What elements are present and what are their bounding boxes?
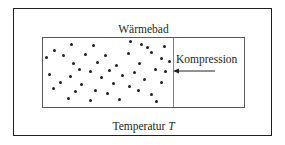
gas-molecule [163, 45, 166, 48]
gas-molecule [118, 98, 121, 101]
gas-molecule [160, 81, 163, 84]
gas-molecule [84, 53, 87, 56]
gas-molecule [108, 69, 111, 72]
gas-molecule [129, 40, 132, 43]
gas-molecule [154, 68, 157, 71]
gas-molecule [78, 68, 81, 71]
gas-molecule [96, 61, 99, 64]
gas-molecule [143, 78, 146, 81]
gas-molecule [52, 87, 55, 90]
gas-molecule [150, 93, 153, 96]
gas-molecule [164, 70, 167, 73]
gas-molecule [128, 85, 131, 88]
gas-molecule [45, 56, 48, 59]
gas-molecule [100, 76, 103, 79]
gas-molecule [92, 44, 95, 47]
gas-molecule [62, 54, 65, 57]
gas-molecule [137, 89, 140, 92]
gas-molecule [150, 51, 153, 54]
gas-molecule [94, 89, 97, 92]
gas-molecule [80, 83, 83, 86]
temperature-label-text: Temperatur [112, 120, 165, 132]
gas-molecule [72, 62, 75, 65]
gas-molecule [115, 64, 118, 67]
temperature-label: Temperatur T [14, 119, 273, 133]
gas-molecule [74, 90, 77, 93]
gas-molecule [59, 81, 62, 84]
gas-molecule [89, 70, 92, 73]
gas-molecule [121, 74, 124, 77]
heat-bath-label: Wärmebad [14, 22, 273, 36]
gas-molecule [89, 99, 92, 102]
gas-region [43, 38, 173, 107]
gas-molecule [70, 43, 73, 46]
gas-molecule [112, 82, 115, 85]
gas-molecule [67, 97, 70, 100]
gas-molecule [127, 52, 130, 55]
gas-molecule [155, 100, 158, 103]
compression-annotation: Kompression [176, 52, 281, 78]
gas-molecule [69, 75, 72, 78]
gas-molecule [133, 71, 136, 74]
gas-molecule [106, 92, 109, 95]
gas-molecule [168, 60, 171, 63]
gas-molecule [53, 49, 56, 52]
compression-label: Kompression [176, 52, 237, 66]
compression-diagram: Wärmebad Temperatur T Kompression [0, 0, 285, 145]
temperature-symbol: T [168, 120, 174, 132]
gas-molecule [140, 43, 143, 46]
gas-molecule [48, 73, 51, 76]
gas-molecule [138, 62, 141, 65]
compression-arrow-icon [173, 67, 215, 75]
gas-molecule [146, 46, 149, 49]
gas-molecule [160, 57, 163, 60]
gas-molecule [104, 54, 107, 57]
